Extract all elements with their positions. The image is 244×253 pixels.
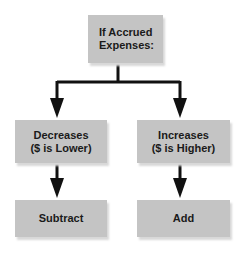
arrowhead-add-icon <box>173 178 187 198</box>
node-label: If Accrued Expenses: <box>99 26 154 52</box>
node-label: Decreases ($ is Lower) <box>30 129 91 155</box>
arrowhead-decreases-icon <box>50 98 64 118</box>
node-if-accrued-expenses: If Accrued Expenses: <box>88 15 163 63</box>
arrowhead-subtract-icon <box>50 178 64 198</box>
node-subtract: Subtract <box>15 200 107 237</box>
node-label: Subtract <box>39 212 84 225</box>
node-label: Increases ($ is Higher) <box>152 129 216 155</box>
node-increases: Increases ($ is Higher) <box>137 120 230 163</box>
arrowhead-increases-icon <box>173 98 187 118</box>
node-add: Add <box>137 200 230 237</box>
node-decreases: Decreases ($ is Lower) <box>15 120 107 163</box>
node-label: Add <box>173 212 194 225</box>
